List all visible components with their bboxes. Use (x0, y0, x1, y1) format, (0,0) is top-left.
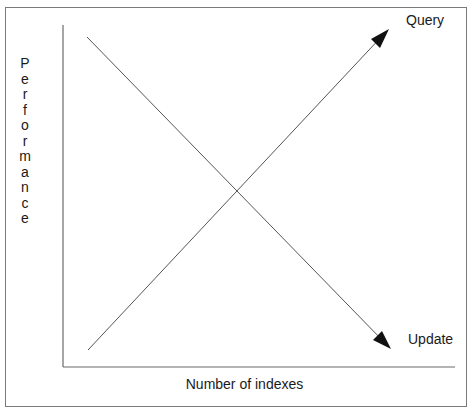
y-letter: P (20, 56, 29, 72)
y-letter: c (22, 196, 29, 212)
y-letter: e (21, 72, 29, 88)
y-letter: o (21, 118, 29, 134)
y-letter: m (19, 149, 31, 165)
y-letter: f (23, 103, 27, 119)
query-label: Query (406, 12, 444, 28)
y-letter: r (23, 87, 28, 103)
y-letter: e (21, 211, 29, 227)
diagram-canvas (0, 0, 475, 419)
y-letter: a (21, 165, 29, 181)
query-line (88, 35, 383, 350)
update-label: Update (408, 331, 453, 347)
update-line (87, 37, 385, 343)
y-letter: r (23, 134, 28, 150)
y-letter: n (21, 180, 29, 196)
x-axis-label: Number of indexes (0, 376, 475, 392)
y-axis-label: P e r f o r m a n c e (19, 56, 31, 227)
